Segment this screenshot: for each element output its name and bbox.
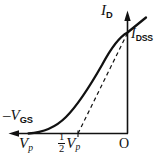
pinchoff-voltage-symbol: V — [19, 135, 28, 151]
dashed-tangent-approximation-line — [78, 33, 128, 134]
origin-label: O — [119, 137, 129, 151]
fraction-denominator: 2 — [58, 144, 65, 155]
one-half-fraction: 1 2 — [58, 132, 65, 154]
vertical-axis-arrowhead-icon — [124, 11, 130, 22]
negative-sign: – — [3, 107, 11, 123]
jfet-transfer-characteristic-figure: ID IDSS –VGS Vp 1 2 Vp O — [0, 0, 162, 160]
saturation-current-subscript: DSS — [136, 33, 153, 43]
gate-source-voltage-axis-label: –VGS — [3, 108, 33, 123]
pinchoff-voltage-label: Vp — [19, 136, 33, 151]
gate-source-voltage-subscript: GS — [20, 115, 33, 125]
transfer-characteristic-curve — [29, 18, 147, 134]
horizontal-axis-arrowhead-icon — [9, 130, 20, 136]
drain-current-axis-label: ID — [101, 3, 113, 18]
drain-current-subscript: D — [106, 10, 113, 20]
half-pinchoff-voltage-label: 1 2 Vp — [58, 132, 80, 154]
vertical-axis — [124, 11, 130, 134]
fraction-numerator: 1 — [58, 132, 65, 144]
pinchoff-voltage-subscript: p — [28, 142, 33, 153]
saturation-current-symbol: I — [131, 26, 136, 41]
half-pinchoff-voltage-subscript: p — [75, 141, 80, 152]
gate-source-voltage-symbol: V — [11, 107, 20, 123]
saturation-current-label: IDSS — [131, 27, 153, 41]
